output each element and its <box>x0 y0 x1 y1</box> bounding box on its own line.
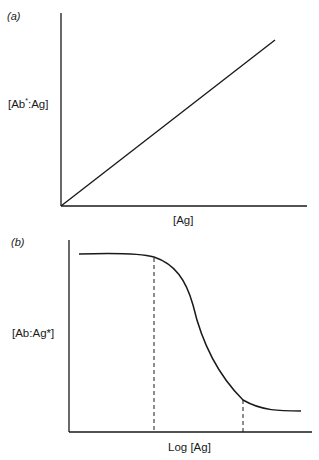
panel-a-label: (a) <box>7 10 20 22</box>
panel-a-linear-curve <box>61 40 275 206</box>
figure-canvas <box>0 0 319 460</box>
panel-a-xlabel: [Ag] <box>173 214 193 226</box>
panel-b-xlabel: Log [Ag] <box>168 441 211 453</box>
panel-a-ylabel-tail: :Ag] <box>28 98 48 110</box>
panel-b-sigmoid-curve <box>79 253 301 411</box>
panel-b-ylabel: [Ab:Ag*] <box>12 327 54 339</box>
panel-b-label: (b) <box>11 236 24 248</box>
panel-b-plot <box>69 240 312 432</box>
panel-a-plot <box>61 13 307 206</box>
panel-a-ylabel-main: [Ab <box>8 98 25 110</box>
panel-a-ylabel: [Ab*:Ag] <box>8 97 48 110</box>
